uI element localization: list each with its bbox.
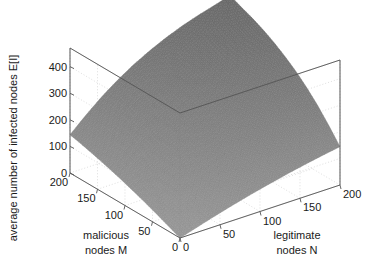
figure-3d-surface-plot: 0100200300400200150100500050100150200 av… <box>0 0 374 270</box>
y-axis-title-line2: nodes N <box>277 244 318 256</box>
y-axis-title-line1: legitimate <box>273 229 320 241</box>
x-axis-title-line2: nodes M <box>85 244 127 256</box>
axis-titles: average number of infected nodes E[I] ma… <box>0 0 374 270</box>
x-axis-title-line1: malicious <box>83 229 129 241</box>
z-axis-title: average number of infected nodes E[I] <box>7 55 19 242</box>
